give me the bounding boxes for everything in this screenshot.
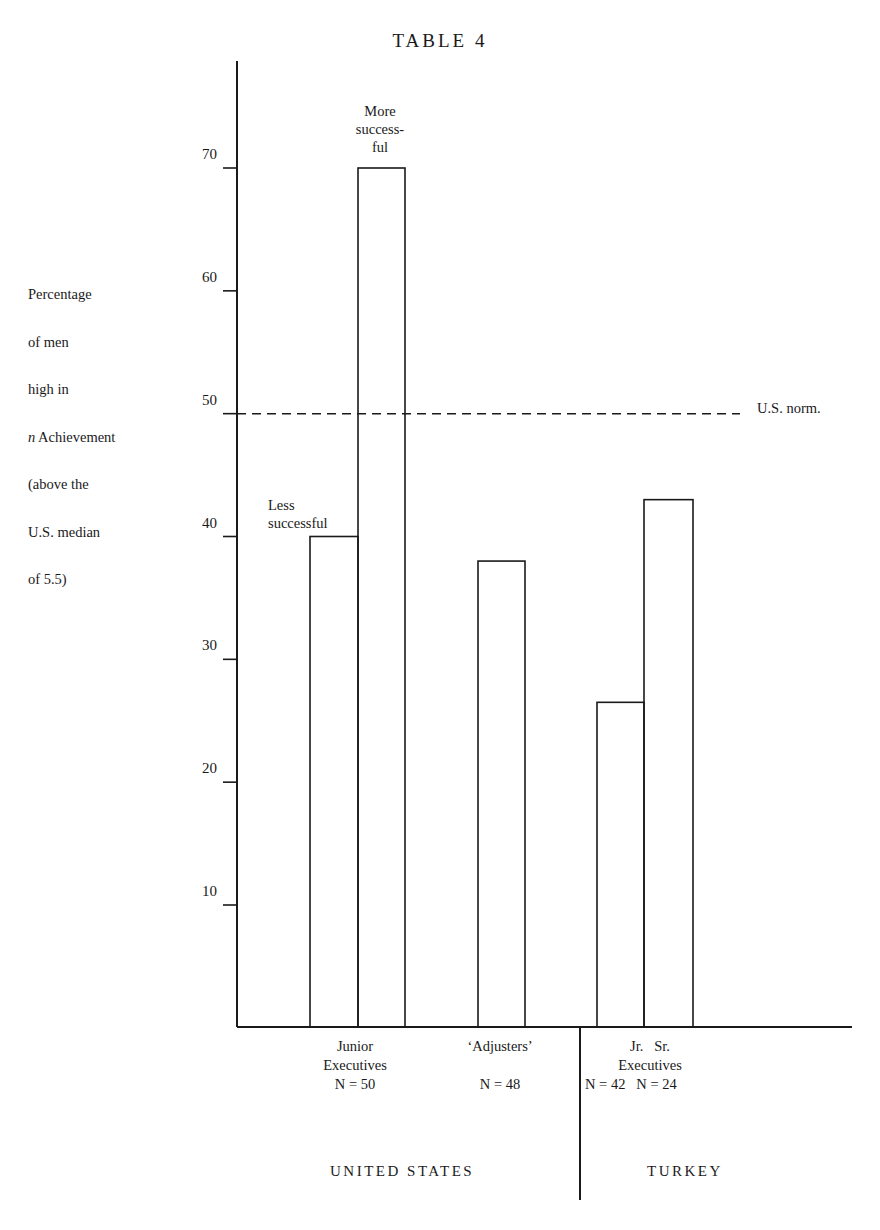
bar-us-junior-less-successful <box>310 537 358 1028</box>
annotation-line: successful <box>268 514 328 532</box>
annotation-line: Less <box>268 496 328 514</box>
annotation-line: More <box>340 102 420 120</box>
bar-us-junior-more-successful <box>358 168 405 1027</box>
category-line: Executives <box>300 1056 410 1075</box>
category-line: Executives <box>585 1056 715 1075</box>
category-line: ‘Adjusters’ <box>450 1037 550 1056</box>
category-n: N = 48 <box>450 1075 550 1094</box>
country-label-us: UNITED STATES <box>330 1163 474 1180</box>
bar-turkey-sr-executives <box>644 500 693 1027</box>
category-line: Jr. Sr. <box>585 1037 715 1056</box>
annotation-line: ful <box>340 138 420 156</box>
bar-turkey-jr-executives <box>597 702 644 1027</box>
us-norm-label: U.S. norm. <box>757 400 821 417</box>
chart-plot-area <box>0 0 880 1230</box>
annotation-more-successful: More success- ful <box>340 102 420 156</box>
category-n: N = 50 <box>300 1075 410 1094</box>
category-n-sr: N = 24 <box>636 1076 676 1092</box>
category-turkey-executives: Jr. Sr. Executives N = 42 N = 24 <box>585 1037 715 1094</box>
category-n-jr: N = 42 <box>585 1076 625 1092</box>
category-n-row: N = 42 N = 24 <box>585 1075 715 1094</box>
bar-us-adjusters <box>478 561 525 1027</box>
annotation-line: success- <box>340 120 420 138</box>
spacer <box>450 1056 550 1075</box>
category-line: Junior <box>300 1037 410 1056</box>
category-adjusters: ‘Adjusters’ N = 48 <box>450 1037 550 1094</box>
country-label-turkey: TURKEY <box>647 1163 723 1180</box>
category-junior-executives: Junior Executives N = 50 <box>300 1037 410 1094</box>
annotation-less-successful: Less successful <box>268 496 328 532</box>
